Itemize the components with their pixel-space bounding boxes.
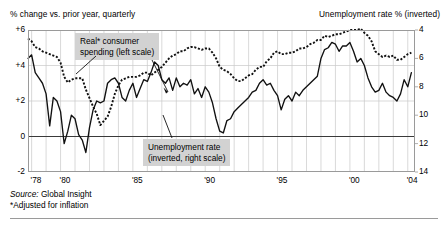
x-tick: '95	[277, 176, 288, 184]
y-tick-left: +4	[1, 61, 25, 69]
callout-consumer-spending: Real* consumer spending (left scale)	[75, 33, 159, 60]
callout-spending-line1: Real* consumer	[80, 36, 154, 47]
y-tick-right: 10	[419, 110, 428, 118]
y-tick-left: +2	[1, 96, 25, 104]
source-value: Global Insight	[39, 189, 92, 199]
x-tick: '00	[349, 176, 360, 184]
x-tick: '85	[132, 176, 143, 184]
source-label: Source:	[10, 189, 39, 199]
callout-unemployment-rate: Unemployment rate (inverted, right scale…	[143, 139, 230, 166]
left-axis-title: % change vs. prior year, quarterly	[10, 9, 135, 19]
y-tick-left: +6	[1, 25, 25, 33]
right-axis-title: Unemployment rate % (inverted)	[319, 9, 440, 19]
y-tick-left: 0	[1, 132, 25, 140]
callout-unemp-line2: (inverted, right scale)	[148, 153, 225, 164]
y-tick-right: 14	[419, 167, 428, 175]
callout-spending-line2: spending (left scale)	[80, 47, 154, 58]
x-tick: '90	[204, 176, 215, 184]
y-tick-left: -2	[1, 167, 25, 175]
chart-figure: % change vs. prior year, quarterly Unemp…	[0, 0, 448, 230]
y-tick-right: 12	[419, 139, 428, 147]
x-tick: '78	[31, 176, 42, 184]
y-tick-right: 4	[419, 25, 424, 33]
x-tick: '80	[60, 176, 71, 184]
inflation-note: *Adjusted for inflation	[10, 200, 88, 211]
y-tick-right: 6	[419, 53, 424, 61]
y-tick-right: 8	[419, 82, 424, 90]
callout-unemp-line1: Unemployment rate	[148, 142, 225, 153]
bottom-divider	[10, 218, 438, 219]
source-note: Source: Global Insight	[10, 189, 92, 200]
x-tick: '04	[407, 176, 418, 184]
